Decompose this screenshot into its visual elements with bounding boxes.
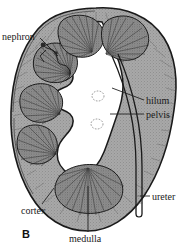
- label-cortex: cortex: [21, 206, 46, 216]
- kidney-diagram-figure: nephron hilum pelvis ureter cortex medul…: [0, 0, 192, 250]
- label-hilum: hilum: [146, 96, 169, 106]
- label-ureter: ureter: [152, 192, 175, 202]
- panel-letter: B: [22, 229, 30, 240]
- medullary-pyramid-upper-right: [101, 16, 149, 62]
- label-medulla: medulla: [69, 234, 101, 244]
- label-nephron: nephron: [2, 32, 35, 42]
- label-pelvis: pelvis: [146, 110, 170, 120]
